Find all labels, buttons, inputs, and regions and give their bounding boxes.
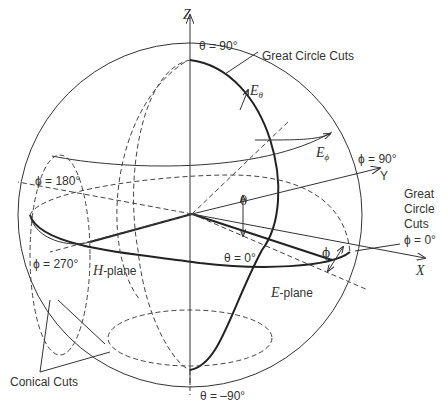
great-circle-right-label-2: Circle [404, 202, 435, 216]
z-axis-label: Z [183, 7, 191, 22]
conical-cuts-leader-2 [58, 300, 105, 344]
theta-neg90-label: θ = –90° [200, 389, 245, 403]
phi-90-label: ϕ = 90° [358, 152, 397, 166]
y-axis [192, 168, 380, 214]
e-theta-arrow [240, 90, 248, 110]
great-circle-right-label-1: Great [404, 187, 435, 201]
conical-cuts-label: Conical Cuts [10, 375, 78, 389]
great-circle-right-label-3: Cuts [404, 217, 429, 231]
great-circle-top-label: Great Circle Cuts [262, 49, 354, 63]
x-axis-label: X [415, 263, 425, 278]
e-plane-great-circle-back [134, 60, 190, 370]
e-phi-label: Eϕ [315, 145, 330, 162]
great-circle-right-leader [355, 244, 400, 251]
e-plane-label: E-plane [270, 285, 313, 300]
h-plane-label: H-plane [92, 263, 137, 278]
great-circle-top-leader [225, 52, 258, 74]
theta-90-label: θ = 90° [199, 39, 238, 53]
phi-180-label: ϕ = 180° [35, 174, 80, 188]
e-plane-dashed [192, 214, 368, 290]
phi-270-label: ϕ = 270° [33, 257, 78, 271]
e-plane-great-circle-front [190, 60, 278, 370]
phi-symbol: ϕ [322, 246, 330, 260]
conical-cut-top [52, 132, 332, 166]
theta-symbol: θ [240, 194, 247, 208]
phi-0-label: ϕ = 0° [404, 233, 436, 247]
y-axis-label: Y [380, 169, 388, 183]
radial-to-x [192, 214, 332, 260]
theta-0-label: θ = 0° [224, 251, 256, 265]
e-theta-label: Eθ [249, 83, 264, 100]
spherical-cuts-diagram: Z θ = 90° Great Circle Cuts Eθ Eϕ ϕ = 90… [0, 0, 447, 405]
